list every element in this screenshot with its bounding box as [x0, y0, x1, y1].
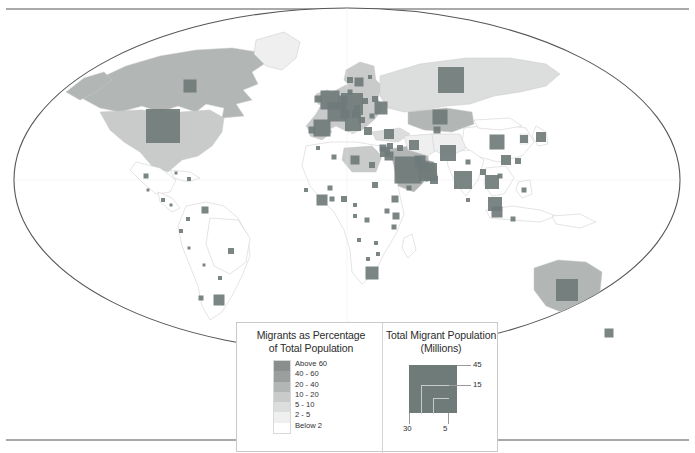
migrant-symbol — [353, 214, 357, 218]
legend-class-label-1: 40 - 60 — [295, 369, 379, 379]
leader-line-30 — [409, 413, 410, 424]
migrant-symbol — [492, 207, 503, 218]
size-legend-title: Total Migrant Population (Millions) — [385, 329, 497, 355]
migrant-symbol — [355, 78, 364, 87]
migrant-symbol — [372, 96, 378, 102]
legend-swatch-1 — [274, 371, 290, 381]
migrant-symbol — [332, 155, 337, 160]
migrant-symbol — [369, 162, 375, 168]
migrant-symbol — [147, 189, 150, 192]
migrant-symbol — [348, 90, 353, 95]
size-label-15: 15 — [473, 380, 482, 389]
migrant-symbol — [202, 207, 209, 214]
migrant-symbol — [454, 171, 472, 189]
migrant-symbol — [330, 197, 335, 202]
migrant-symbol — [372, 182, 378, 188]
migrant-symbol — [490, 135, 505, 150]
migrant-symbol — [409, 140, 419, 150]
migrant-symbol — [440, 145, 456, 161]
migrant-symbol — [365, 218, 370, 223]
migrant-symbol — [433, 110, 448, 125]
map-legend: Migrants as Percentage of Total Populati… — [236, 322, 498, 452]
migrant-symbol — [359, 117, 365, 123]
migrant-symbol — [498, 174, 503, 179]
migrant-symbol — [218, 276, 222, 280]
legend-swatch-3 — [274, 392, 290, 402]
migrant-symbol — [536, 132, 546, 142]
migrant-symbol — [357, 238, 361, 242]
legend-swatch-6 — [274, 423, 290, 433]
migrant-symbol — [188, 247, 191, 250]
migrant-symbol — [187, 177, 191, 181]
migrant-symbol — [430, 176, 438, 184]
migrant-symbol — [337, 103, 344, 110]
migrant-symbol — [556, 279, 578, 301]
migrant-symbol — [328, 186, 333, 191]
legend-swatch-4 — [274, 402, 290, 412]
migrant-symbol — [317, 195, 328, 206]
migrant-symbol — [501, 155, 511, 165]
migrant-symbol — [480, 169, 486, 175]
migrant-symbol — [485, 175, 499, 189]
migrant-symbol — [374, 241, 378, 245]
migrant-symbol — [203, 264, 206, 267]
migrant-symbol — [397, 145, 403, 151]
legend-class-label-2: 20 - 40 — [295, 380, 379, 390]
migrant-symbol — [352, 110, 360, 118]
migrant-symbol — [515, 158, 521, 164]
legend-class-label-3: 10 - 20 — [295, 390, 379, 400]
migrant-symbol — [392, 225, 397, 230]
legend-class-label-5: 2 - 5 — [295, 410, 379, 420]
migrant-symbol — [385, 152, 394, 161]
migrant-symbol — [353, 203, 357, 207]
migrant-symbol — [144, 174, 149, 179]
migrant-symbol — [522, 188, 527, 193]
migrant-symbol — [199, 296, 204, 301]
migrant-symbol — [362, 98, 368, 104]
migrant-symbol — [421, 162, 429, 170]
migrant-symbol — [407, 186, 412, 191]
migrant-symbol — [366, 257, 370, 261]
size-label-30: 30 — [403, 424, 412, 433]
leader-line-15 — [449, 385, 471, 386]
migrant-symbol — [179, 229, 183, 233]
migrant-symbol — [351, 156, 360, 165]
leader-line-5 — [448, 413, 449, 424]
migrant-symbol — [228, 248, 234, 254]
choropleth-legend-title: Migrants as Percentage of Total Populati… — [241, 329, 381, 355]
size-label-45: 45 — [473, 360, 482, 369]
migrant-symbol — [161, 198, 165, 202]
migrant-symbol — [387, 143, 393, 149]
choropleth-legend-title-line1: Migrants as Percentage — [241, 329, 381, 342]
choropleth-color-ramp — [273, 360, 291, 434]
migrant-symbol — [438, 67, 464, 93]
migrant-symbol — [184, 80, 197, 93]
migrant-symbol — [309, 127, 316, 134]
legend-swatch-0 — [274, 361, 290, 371]
migrant-symbol — [384, 129, 394, 139]
legend-class-label-0: Above 60 — [295, 359, 379, 369]
migrant-symbol — [520, 135, 528, 143]
migrant-symbol — [370, 114, 375, 119]
migrant-symbol — [385, 209, 390, 214]
migrant-symbol — [304, 188, 308, 192]
migrant-symbol — [364, 127, 372, 135]
migrant-symbol — [434, 127, 441, 134]
migrant-symbol — [366, 267, 379, 280]
legend-class-label-4: 5 - 10 — [295, 400, 379, 410]
migrant-symbol — [175, 172, 178, 175]
size-legend-title-line1: Total Migrant Population — [385, 329, 497, 342]
migrant-symbol — [380, 145, 387, 152]
size-legend-title-line2: (Millions) — [385, 342, 497, 355]
choropleth-legend-title-line2: of Total Population — [241, 342, 381, 355]
migrant-symbol — [354, 105, 360, 111]
migrant-symbol — [316, 146, 320, 150]
migrant-symbol — [368, 75, 372, 79]
migrant-symbol — [314, 120, 331, 137]
size-square-5 — [433, 398, 449, 414]
migrant-symbol — [186, 217, 190, 221]
migrant-symbol — [376, 252, 380, 256]
migrant-symbol — [146, 109, 180, 143]
migrant-symbol — [511, 217, 516, 222]
